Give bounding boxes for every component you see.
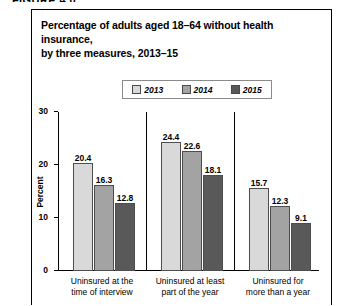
bar-2013-group2[interactable]: 24.4 [161, 142, 181, 271]
bar-value-2015-group1: 12.8 [117, 193, 134, 203]
bar-value-2013-group2: 24.4 [163, 132, 180, 142]
bar-2013-group3[interactable]: 15.7 [249, 188, 269, 271]
bar-value-2014-group3: 12.3 [272, 196, 289, 206]
legend-label-2013: 2013 [144, 85, 163, 95]
bar-value-2013-group1: 20.4 [75, 153, 92, 163]
bar-2015-group2[interactable]: 18.1 [203, 175, 223, 271]
legend-item-2013: 2013 [132, 85, 163, 95]
bar-2015-group3[interactable]: 9.1 [291, 223, 311, 271]
category-label-1: Uninsured at the time of interview [58, 276, 146, 298]
bar-2014-group2[interactable]: 22.6 [182, 151, 202, 271]
category-label-2: Uninsured at least part of the year [146, 276, 234, 298]
legend-item-2014: 2014 [182, 85, 213, 95]
y-tick-label-30: 30 [39, 106, 48, 116]
bar-value-2015-group3: 9.1 [295, 213, 307, 223]
y-tick-label-20: 20 [39, 159, 48, 169]
bar-2014-group1[interactable]: 16.3 [94, 185, 114, 271]
legend-swatch-2014 [182, 85, 191, 94]
bar-2015-group1[interactable]: 12.8 [115, 203, 135, 271]
chart-legend: 2013 2014 2015 [122, 80, 272, 99]
category-label-3: Uninsured for more than a year [234, 276, 322, 298]
figure-label: FIGURE 4.0 [12, 0, 76, 2]
bar-2013-group1[interactable]: 20.4 [73, 163, 93, 271]
bar-value-2015-group2: 18.1 [205, 165, 222, 175]
legend-swatch-2015 [231, 85, 240, 94]
legend-label-2014: 2014 [194, 85, 213, 95]
bar-value-2013-group3: 15.7 [251, 178, 268, 188]
bar-group-uninsured-more-than-a-year: 15.7 12.3 9.1 [234, 112, 322, 271]
legend-item-2015: 2015 [231, 85, 262, 95]
chart-title-line-1: Percentage of adults aged 18–64 without … [41, 18, 326, 46]
legend-swatch-2013 [132, 85, 141, 94]
bar-value-2014-group2: 22.6 [184, 141, 201, 151]
y-tick-label-10: 10 [39, 212, 48, 222]
bar-group-uninsured-at-least-part-of-year: 24.4 22.6 18.1 [146, 112, 234, 271]
chart-title: Percentage of adults aged 18–64 without … [41, 18, 326, 60]
chart-title-line-2: by three measures, 2013–15 [41, 46, 326, 60]
y-tick-label-0: 0 [43, 265, 48, 275]
bar-value-2014-group1: 16.3 [96, 175, 113, 185]
y-axis-label: Percent [35, 176, 45, 207]
legend-label-2015: 2015 [243, 85, 262, 95]
bar-group-uninsured-at-time-of-interview: 20.4 16.3 12.8 [58, 112, 146, 271]
bar-2014-group3[interactable]: 12.3 [270, 206, 290, 271]
plot-area: 0 10 20 30 Percent 20.4 16.3 12.8 24.4 2… [58, 112, 320, 271]
